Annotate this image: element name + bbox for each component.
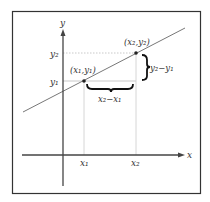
y-axis-label: y bbox=[59, 18, 66, 28]
tick-label-y2: y₂ bbox=[49, 49, 59, 59]
tick-label-x2: x₂ bbox=[131, 158, 140, 168]
point-1-label: (x₁,y₁) bbox=[70, 65, 96, 75]
run-brace-icon bbox=[87, 84, 133, 92]
x-axis-arrow-icon bbox=[178, 153, 185, 158]
y-axis-arrow-icon bbox=[61, 29, 66, 36]
slope-diagram: y x y₂ y₁ x₁ x₂ (x₁,y₁) (x₂,y₂) y₂−y₁ x₂… bbox=[0, 0, 210, 202]
run-label: x₂−x₁ bbox=[98, 94, 122, 104]
tick-label-y1: y₁ bbox=[49, 77, 59, 87]
point-2-label: (x₂,y₂) bbox=[124, 37, 150, 47]
tick-label-x1: x₁ bbox=[80, 158, 89, 168]
rise-brace-icon bbox=[142, 55, 150, 80]
point-1 bbox=[82, 79, 86, 83]
x-axis-label: x bbox=[187, 150, 192, 160]
point-2 bbox=[134, 51, 138, 55]
rise-label: y₂−y₁ bbox=[149, 63, 174, 73]
